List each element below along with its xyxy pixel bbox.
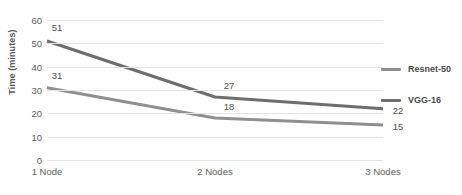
legend-item[interactable]: Resnet-50 xyxy=(381,60,462,78)
gridline: 20 xyxy=(47,113,383,114)
line-chart: Time (minutes) 6050403020100311815512722… xyxy=(0,0,462,195)
legend-item[interactable]: VGG-16 xyxy=(381,91,462,109)
gridline: 0 xyxy=(47,160,383,161)
legend-label: Resnet-50 xyxy=(408,64,451,74)
gridline: 60 xyxy=(47,20,383,21)
data-point-label: 27 xyxy=(224,80,235,91)
y-axis-title: Time (minutes) xyxy=(7,12,17,112)
x-tick-label: 1 Node xyxy=(32,166,63,177)
gridline: 10 xyxy=(47,137,383,138)
data-point-label: 15 xyxy=(393,121,404,132)
gridline: 40 xyxy=(47,67,383,68)
x-tick-label: 3 Nodes xyxy=(365,166,400,177)
series-line-vgg-16 xyxy=(47,41,383,109)
legend-swatch-icon xyxy=(381,99,401,102)
data-point-label: 31 xyxy=(52,69,63,80)
y-tick-label: 60 xyxy=(31,15,42,26)
plot-area: 6050403020100311815512722 xyxy=(47,20,383,160)
y-tick-label: 20 xyxy=(31,108,42,119)
gridline: 50 xyxy=(47,43,383,44)
x-tick-label: 2 Nodes xyxy=(197,166,232,177)
legend-swatch-icon xyxy=(381,68,401,71)
data-point-label: 51 xyxy=(52,22,63,33)
chart-legend: Resnet-50VGG-16 xyxy=(381,60,462,122)
y-tick-label: 10 xyxy=(31,131,42,142)
y-tick-label: 30 xyxy=(31,85,42,96)
y-tick-label: 0 xyxy=(37,155,42,166)
gridline: 30 xyxy=(47,90,383,91)
data-point-label: 18 xyxy=(224,101,235,112)
y-tick-label: 50 xyxy=(31,38,42,49)
legend-label: VGG-16 xyxy=(408,95,441,105)
y-tick-label: 40 xyxy=(31,61,42,72)
